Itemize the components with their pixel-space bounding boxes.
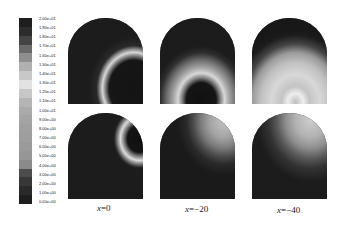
colorbar-tick-label: 1.50e+01 xyxy=(39,62,56,67)
contour-plot xyxy=(252,113,327,199)
colorbar-tick-label: 5.00e+00 xyxy=(39,153,56,158)
colorbar-tick-label: 2.00e+01 xyxy=(39,16,56,21)
colorbar xyxy=(19,18,32,204)
colorbar-tick-label: 4.00e+00 xyxy=(39,163,56,168)
contour-plot xyxy=(252,18,327,104)
colorbar-tick-label: 1.70e+01 xyxy=(39,43,56,48)
colorbar-tick-label: 1.60e+01 xyxy=(39,53,56,58)
colorbar-segment xyxy=(19,195,32,204)
colorbar-tick-label: 0.00e+00 xyxy=(39,199,56,204)
colorbar-tick-label: 1.40e+01 xyxy=(39,71,56,76)
contour-panel-top-x-20 xyxy=(160,18,235,104)
column-label-x0: x=0 xyxy=(97,203,111,213)
colorbar-tick-label: 1.80e+01 xyxy=(39,34,56,39)
colorbar-tick-label: 1.00e+01 xyxy=(39,108,56,113)
contour-panel-bottom-x-20 xyxy=(160,113,235,199)
label-value: =−20 xyxy=(189,204,208,214)
colorbar-tick-label: 9.00e+00 xyxy=(39,117,56,122)
contour-panel-bottom-x-40 xyxy=(252,113,327,199)
colorbar-tick-label: 7.00e+00 xyxy=(39,135,56,140)
contour-panel-top-x-40 xyxy=(252,18,327,104)
contour-panel-bottom-x0 xyxy=(68,113,143,199)
colorbar-tick-label: 1.10e+01 xyxy=(39,98,56,103)
label-value: =−40 xyxy=(281,205,300,215)
colorbar-tick-label: 8.00e+00 xyxy=(39,126,56,131)
colorbar-tick-label: 1.20e+01 xyxy=(39,89,56,94)
contour-panel-top-x0 xyxy=(68,18,143,104)
contour-plot xyxy=(68,18,143,104)
column-label-x-40: x=−40 xyxy=(277,205,300,215)
colorbar-tick-label: 1.90e+01 xyxy=(39,25,56,30)
colorbar-tick-label: 1.00e+00 xyxy=(39,190,56,195)
contour-plot xyxy=(160,113,235,199)
colorbar-tick-label: 1.30e+01 xyxy=(39,80,56,85)
colorbar-tick-label: 6.00e+00 xyxy=(39,144,56,149)
colorbar-tick-label: 3.00e+00 xyxy=(39,172,56,177)
contour-plot xyxy=(160,18,235,104)
label-value: =0 xyxy=(101,203,111,213)
column-label-x-20: x=−20 xyxy=(185,204,208,214)
colorbar-tick-label: 2.00e+00 xyxy=(39,181,56,186)
contour-plot xyxy=(68,113,143,199)
